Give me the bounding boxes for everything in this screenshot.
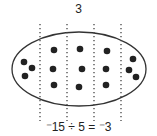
division-diagram bbox=[0, 0, 157, 136]
equation-label: ⁻15 ÷ 5 = ⁻3 bbox=[0, 120, 157, 134]
